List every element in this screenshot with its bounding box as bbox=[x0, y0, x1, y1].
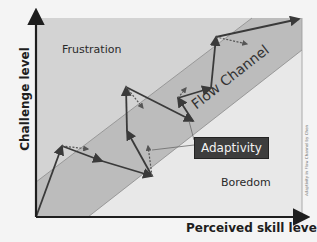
y-axis-label: Challenge level bbox=[18, 44, 32, 154]
x-axis-label: Perceived skill level bbox=[186, 221, 317, 235]
boredom-label: Boredom bbox=[221, 176, 271, 189]
adaptivity-callout: Adaptivity bbox=[194, 137, 269, 159]
diagram-canvas bbox=[0, 0, 317, 242]
flow-channel-diagram: Frustration Boredom Flow Channel Adaptiv… bbox=[0, 0, 317, 242]
frustration-label: Frustration bbox=[62, 43, 121, 56]
credit-text: Adaptivity in Flow Channel by Chen bbox=[304, 111, 309, 211]
